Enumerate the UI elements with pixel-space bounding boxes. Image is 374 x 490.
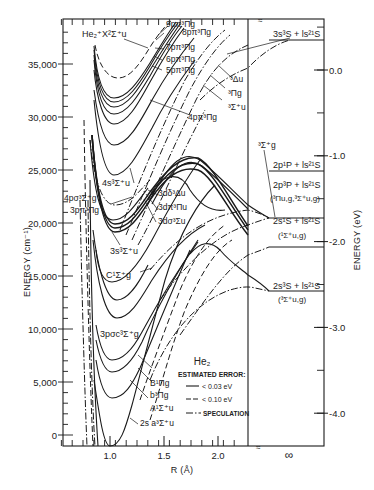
x-infinity-label: ∞ [285, 448, 294, 462]
label-3ppi: 3pπ³Πg [70, 205, 99, 215]
label-3ddelta: 3dδ³Δu [158, 188, 186, 198]
potential-curves [80, 20, 290, 446]
label-4ppi: 4pπ³Πg [188, 112, 217, 122]
label-c3Sg: 3pσc³Σ⁺g [100, 329, 139, 339]
label-C1Sg: C¹Σ⁺g [106, 270, 131, 280]
ev-tick-label: -2.0 [329, 236, 345, 247]
legend-dashed: < 0.10 eV [202, 396, 232, 403]
legend-dashdot: SPECULATION [203, 410, 249, 417]
y-tick-label: 20,000 [28, 218, 57, 229]
y-tick-label: 15,000 [28, 271, 57, 282]
label-b3Pg: b³Πg [150, 390, 169, 400]
label-5ppi: 5pπ³Πg [166, 65, 195, 75]
label-8ppi: 8pπ³Πg [182, 27, 211, 37]
asymptote-2s1S: 2s¹S + ls²¹S [273, 216, 320, 226]
label-6ppi: 6pπ³Πg [166, 54, 195, 64]
x-axis-label: R (Å) [171, 465, 194, 475]
ev-tick-label: -3.0 [329, 322, 345, 333]
y-tick-label: 30,000 [28, 112, 57, 123]
asymptote-2s3S: 2s³S + ls²¹S [273, 281, 320, 291]
axis-break-mark-top: ≈ [258, 16, 263, 25]
curve-B1Pg [96, 242, 198, 360]
asymptote-2p3P: 2p³P + ls²¹S [273, 180, 321, 190]
ev-tick-label: 0.0 [329, 65, 342, 76]
label-3Sg: ³Σ⁺g [258, 140, 276, 150]
y-tick-label: 10,000 [28, 324, 57, 335]
y-tick-label: 0 [52, 430, 57, 441]
legend-title: ESTIMATED ERROR: [178, 371, 245, 378]
legend-solid: < 0.03 eV [202, 383, 232, 390]
x-tick-label: 2.0 [211, 450, 224, 461]
label-7ppi: 7pπ³Πg [166, 42, 195, 52]
legend: He₂ ESTIMATED ERROR: < 0.03 eV < 0.10 eV… [178, 356, 249, 417]
label-a3Su: 2s a³Σ⁺u [140, 418, 174, 428]
label-4psigma: 4pσ³Σ⁺g [64, 193, 97, 203]
label-4s3Su: 4s³Σ⁺u [102, 178, 130, 188]
ev-tick-label: -4.0 [329, 408, 345, 419]
ev-tick-label: -1.0 [329, 150, 345, 161]
left-y-axis-label: ENERGY (cm⁻¹) [22, 227, 32, 297]
asymptote-2s1S-terms: (¹Σ⁺u,g) [278, 231, 306, 240]
asymptote-2p1P: 2p¹P + ls²¹S [273, 160, 321, 170]
potential-energy-diagram: .c{fill:none;stroke:#1a1a1a;stroke-width… [0, 0, 374, 490]
label-3dpi: 3dπ³Πu [158, 202, 187, 212]
y-tick-label: 25,000 [28, 165, 57, 176]
label-A1Su: A¹Σ⁺u [150, 403, 174, 413]
axis-break-mark-bottom: ≈ [256, 443, 261, 452]
label-3Su: ³Σ⁺u [228, 102, 246, 112]
left-y-axis: 05,00010,00015,00020,00025,00030,00035,0… [28, 32, 73, 440]
label-He2plus: He₂⁺X²Σ⁺u [82, 29, 127, 39]
asymptote-3s: 3s³S + ls²¹S [273, 29, 320, 39]
label-B1Pg: B¹Πg [150, 378, 170, 388]
x-tick-label: 1.0 [103, 450, 116, 461]
asymptote-2s3S-terms: (³Σ⁺u,g) [278, 295, 306, 304]
label-3Pg: ³Πg [228, 88, 242, 98]
y-tick-label: 5,000 [33, 377, 57, 388]
y-tick-label: 35,000 [28, 59, 57, 70]
right-y-axis-label: ENERGY (eV) [352, 210, 362, 271]
curve-4s3Su [94, 60, 195, 175]
x-tick-label: 1.5 [157, 450, 170, 461]
label-3s3Su: 3s³Σ⁺u [110, 246, 138, 256]
label-3dsigma: 3dσ³Σu [158, 216, 186, 226]
legend-molecule: He₂ [194, 356, 211, 367]
asymptote-2p3P-terms: (³Πu,g,³Σ⁺u,g) [270, 194, 320, 203]
label-3Du: ³Δu [230, 74, 244, 84]
asymptote-labels: 3s³S + ls²¹S 2p¹P + ls²¹S 2p³P + ls²¹S (… [270, 29, 321, 304]
